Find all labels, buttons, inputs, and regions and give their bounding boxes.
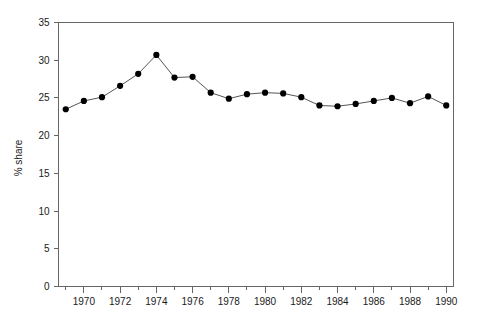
x-tick-label: 1978 [218, 296, 241, 307]
data-point [334, 103, 340, 109]
data-point [81, 98, 87, 104]
y-tick-label: 10 [38, 206, 50, 217]
data-point [407, 100, 413, 106]
data-point [443, 102, 449, 108]
x-tick-label: 1970 [73, 296, 96, 307]
data-point [171, 74, 177, 80]
x-tick-label: 1986 [363, 296, 386, 307]
chart-page: 05101520253035 1970197219741976197819801… [0, 0, 482, 325]
line-chart: 05101520253035 1970197219741976197819801… [0, 0, 482, 325]
data-point [389, 95, 395, 101]
y-tick-label: 5 [44, 243, 50, 254]
y-tick-label: 0 [44, 281, 50, 292]
chart-background [0, 0, 482, 325]
data-point [425, 93, 431, 99]
data-point [244, 91, 250, 97]
x-tick-label: 1974 [145, 296, 168, 307]
data-point [298, 94, 304, 100]
y-tick-label: 15 [38, 168, 50, 179]
data-point [208, 90, 214, 96]
data-point [189, 74, 195, 80]
data-point [99, 94, 105, 100]
data-point [316, 102, 322, 108]
data-point [135, 71, 141, 77]
y-tick-label: 35 [38, 17, 50, 28]
x-tick-label: 1982 [290, 296, 313, 307]
y-tick-label: 20 [38, 130, 50, 141]
y-axis-title: % share [13, 139, 24, 176]
data-point [153, 52, 159, 58]
y-tick-label: 30 [38, 55, 50, 66]
x-tick-label: 1972 [109, 296, 132, 307]
data-point [371, 98, 377, 104]
data-point [280, 90, 286, 96]
x-tick-label: 1976 [181, 296, 204, 307]
data-point [353, 101, 359, 107]
x-tick-label: 1984 [326, 296, 349, 307]
data-point [262, 90, 268, 96]
data-point [63, 106, 69, 112]
x-tick-label: 1988 [399, 296, 422, 307]
x-tick-label: 1980 [254, 296, 277, 307]
x-tick-label: 1990 [435, 296, 458, 307]
y-tick-label: 25 [38, 92, 50, 103]
data-point [226, 96, 232, 102]
data-point [117, 83, 123, 89]
